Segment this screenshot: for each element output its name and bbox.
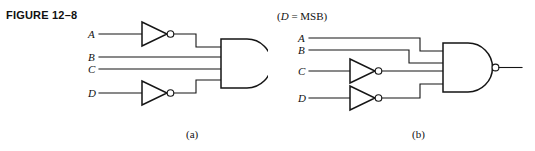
- figure-container: FIGURE 12–8 (D = MSB) A B C D A: [0, 0, 535, 151]
- wire-a-Abar-to-gate: [174, 34, 221, 47]
- circuit-diagram-a: A B C D: [0, 0, 268, 151]
- pin-label-b-D: D: [297, 92, 306, 104]
- caption-a: (a): [186, 128, 198, 140]
- inverter-b-D: [350, 86, 375, 110]
- inverter-a-A: [142, 22, 167, 46]
- pin-label-b-C: C: [298, 65, 306, 77]
- inverter-a-D: [142, 81, 167, 105]
- wire-b-input-B: [309, 50, 443, 63]
- nand-output-bubble-b: [492, 64, 499, 71]
- wire-a-Dbar-to-gate: [174, 80, 221, 93]
- inverter-bubble-b-C: [375, 68, 382, 75]
- pin-label-b-A: A: [297, 32, 305, 44]
- circuit-diagram-b: A B C D: [267, 0, 535, 151]
- inverter-bubble-a-D: [167, 90, 174, 97]
- nand-gate-a: [221, 39, 268, 88]
- nand-gate-b: [443, 43, 492, 92]
- pin-label-b-B: B: [298, 44, 305, 56]
- wire-b-Dbar-to-gate: [382, 84, 443, 98]
- caption-b: (b): [412, 128, 425, 140]
- pin-label-a-C: C: [88, 63, 96, 75]
- pin-label-a-A: A: [87, 28, 95, 40]
- inverter-bubble-a-A: [167, 31, 174, 38]
- wire-b-input-A: [309, 38, 443, 51]
- pin-label-a-B: B: [88, 51, 95, 63]
- inverter-b-C: [350, 59, 375, 83]
- pin-label-a-D: D: [87, 87, 96, 99]
- inverter-bubble-b-D: [375, 95, 382, 102]
